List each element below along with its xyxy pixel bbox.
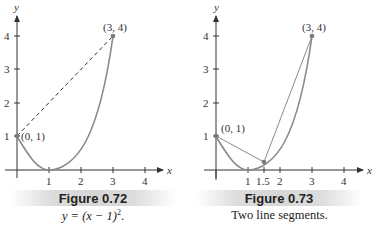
caption-equation: y = (x − 1) bbox=[62, 209, 117, 223]
y-axis-label: y bbox=[213, 1, 219, 13]
y-ticks: 1 2 3 4 bbox=[4, 30, 20, 142]
y-ticks: 1 2 3 4 bbox=[203, 30, 219, 142]
point-label-0-1: (0, 1) bbox=[221, 122, 245, 135]
two-line-segments bbox=[216, 36, 312, 162]
svg-text:4: 4 bbox=[203, 30, 209, 42]
parabola-curve bbox=[216, 36, 312, 170]
point-label-3-4: (3, 4) bbox=[103, 21, 127, 34]
figure-0-73-label-bar: Figure 0.73 bbox=[196, 190, 362, 206]
figure-0-72-caption: y = (x − 1)2. bbox=[0, 208, 186, 224]
x-axis-label: x bbox=[366, 164, 372, 176]
point-label-3-4: (3, 4) bbox=[302, 21, 326, 34]
svg-text:2: 2 bbox=[277, 175, 283, 187]
svg-text:1: 1 bbox=[203, 130, 209, 142]
x-axis-label: x bbox=[166, 164, 172, 176]
figure-0-73-label: Figure 0.73 bbox=[245, 191, 314, 206]
point-0-1 bbox=[15, 134, 20, 139]
svg-text:2: 2 bbox=[203, 97, 209, 109]
point-label-0-1: (0, 1) bbox=[21, 130, 45, 143]
figure-0-73-caption: Two line segments. bbox=[186, 208, 373, 223]
svg-text:2: 2 bbox=[78, 175, 84, 187]
svg-text:1: 1 bbox=[245, 175, 251, 187]
figure-0-72-label-bar: Figure 0.72 bbox=[10, 190, 176, 206]
y-axis-label: y bbox=[13, 1, 19, 13]
svg-text:1: 1 bbox=[46, 175, 52, 187]
svg-text:3: 3 bbox=[4, 63, 10, 75]
point-3-4 bbox=[310, 34, 315, 39]
svg-text:4: 4 bbox=[341, 175, 347, 187]
parabola-curve bbox=[17, 36, 113, 170]
svg-text:3: 3 bbox=[203, 63, 209, 75]
svg-text:3: 3 bbox=[110, 175, 116, 187]
svg-text:1: 1 bbox=[4, 130, 10, 142]
figure-0-73-plot: x y 1 1.5 2 3 4 1 2 3 4 bbox=[203, 1, 372, 187]
figure-0-72-plot: x y 1 2 3 4 1 2 3 4 ( bbox=[4, 1, 172, 187]
point-3-4 bbox=[111, 34, 116, 39]
svg-text:2: 2 bbox=[4, 97, 10, 109]
svg-text:4: 4 bbox=[4, 30, 10, 42]
svg-text:3: 3 bbox=[309, 175, 315, 187]
figure-0-72-label: Figure 0.72 bbox=[59, 191, 128, 206]
point-1-5 bbox=[262, 160, 267, 165]
svg-text:4: 4 bbox=[142, 175, 148, 187]
svg-text:1.5: 1.5 bbox=[256, 175, 270, 187]
dashed-secant-line bbox=[17, 36, 113, 136]
point-0-1 bbox=[214, 134, 219, 139]
